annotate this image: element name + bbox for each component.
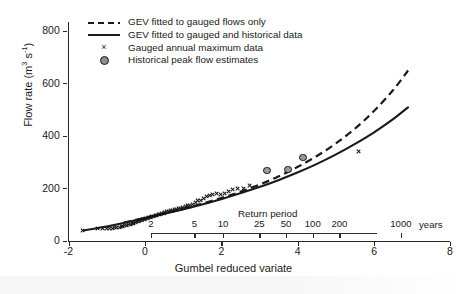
scan-artifact (0, 276, 467, 294)
flood-frequency-chart: 800 600 400 200 0 -2 0 2 4 6 8 Flow rate… (0, 0, 467, 294)
historical-estimate-point (263, 167, 270, 174)
historical-estimate-point (299, 154, 306, 161)
fitted-curves (0, 0, 467, 294)
gev-gauged-only-curve (124, 70, 408, 222)
historical-estimate-point (284, 166, 291, 173)
